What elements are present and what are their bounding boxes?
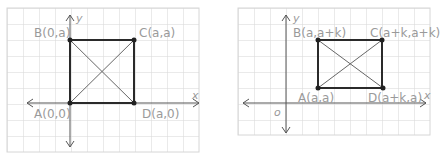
diagram-canvas: x y B(0,a) C(a,a) A(0,0) D(a,0) x xyxy=(0,0,441,167)
label-c: C(a+k,a+k) xyxy=(370,26,440,40)
point-c xyxy=(132,38,137,43)
label-d: D(a+k,a) xyxy=(368,91,422,105)
point-d xyxy=(381,86,386,91)
y-axis-label: y xyxy=(292,12,300,25)
label-b: B(0,a) xyxy=(34,26,70,40)
right-diagram: x y o B(a,a+k) C(a+k,a+k) A(a,a) D(a+k,a… xyxy=(238,8,440,135)
label-b: B(a,a+k) xyxy=(293,26,346,40)
point-d xyxy=(132,101,137,106)
label-c: C(a,a) xyxy=(139,26,175,40)
label-d: D(a,0) xyxy=(142,107,179,121)
origin-label: o xyxy=(274,106,281,119)
point-a xyxy=(68,101,73,106)
left-diagram: x y B(0,a) C(a,a) A(0,0) D(a,0) xyxy=(7,8,199,152)
x-axis-label: x xyxy=(191,89,199,102)
label-a: A(a,a) xyxy=(298,91,334,105)
x-axis-label: x xyxy=(423,89,431,102)
point-a xyxy=(316,86,321,91)
label-a: A(0,0) xyxy=(34,107,71,121)
y-axis-label: y xyxy=(75,12,83,25)
